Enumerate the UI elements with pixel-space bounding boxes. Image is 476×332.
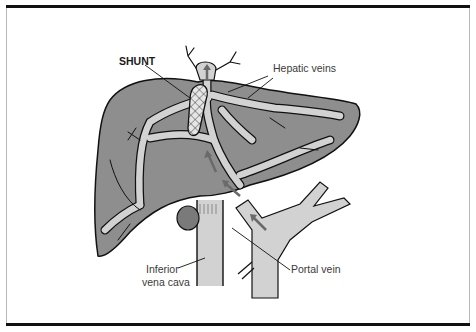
label-shunt: SHUNT (119, 55, 155, 67)
liver-illustration (0, 0, 476, 332)
label-hepatic-veins: Hepatic veins (273, 62, 336, 74)
portal-vein (236, 182, 350, 298)
inferior-vena-cava (197, 200, 223, 286)
label-ivc-line1: Inferior (146, 263, 179, 275)
label-ivc-line2: vena cava (142, 276, 190, 288)
label-portal-vein: Portal vein (291, 263, 341, 275)
caudate-lobe (177, 206, 199, 230)
